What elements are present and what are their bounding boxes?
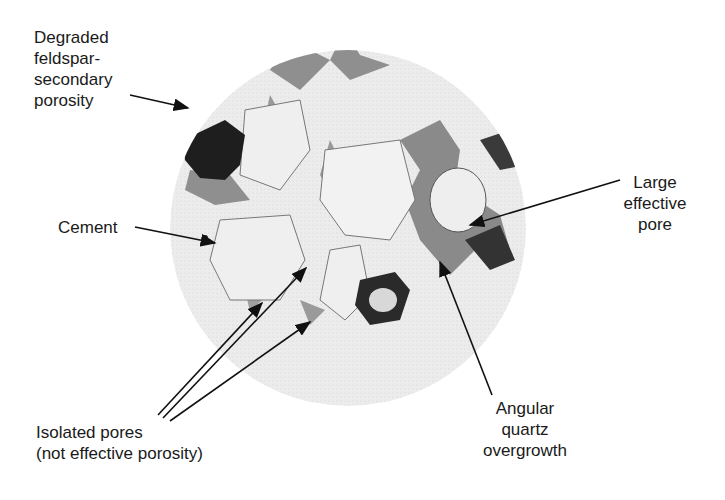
microscope-view: [170, 30, 526, 406]
label-degraded-feldspar: Degraded feldspar- secondary porosity: [34, 27, 112, 111]
arrow-degraded-feldspar: [130, 95, 188, 108]
label-large-effective-pore: Large effective pore: [605, 172, 705, 235]
label-angular-quartz: Angular quartz overgrowth: [470, 398, 580, 461]
label-isolated-pores: Isolated pores (not effective porosity): [36, 422, 203, 464]
label-cement: Cement: [58, 217, 118, 238]
